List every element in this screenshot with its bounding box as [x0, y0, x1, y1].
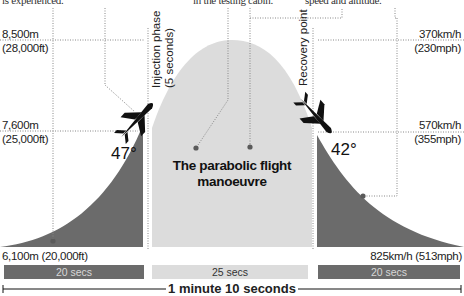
total-duration-label: 1 minute 10 seconds	[166, 281, 298, 296]
altitude-7600: 7,600m (25,000ft)	[2, 118, 48, 146]
title-line-1: The parabolic flight	[170, 158, 294, 174]
parabola-area	[152, 40, 312, 247]
parabola-duration-bar: 25 secs	[152, 265, 308, 279]
altitude-8500: 8,500m (28,000ft)	[2, 27, 48, 55]
climb-angle: 47°	[111, 144, 137, 164]
caption-top-center-left: in the testing cabin.	[193, 0, 273, 6]
altitude-8500-m: 8,500m	[2, 27, 48, 41]
diagram-title: The parabolic flight manoeuvre	[170, 158, 294, 190]
descent-angle: 42°	[331, 140, 357, 160]
title-line-2: manoeuvre	[170, 174, 294, 190]
injection-phase-duration: (5 seconds)	[163, 11, 176, 88]
speed-370: 370km/h (230mph)	[414, 27, 461, 55]
recovery-point-label: Recovery point	[297, 9, 310, 86]
altitude-7600-m: 7,600m	[2, 118, 48, 132]
speed-370-mph: (230mph)	[414, 41, 461, 55]
speed-570: 570km/h (355mph)	[414, 118, 461, 146]
speed-825: 825km/h (513mph)	[370, 249, 462, 263]
altitude-8500-ft: (28,000ft)	[2, 41, 48, 55]
descent-duration-bar: 20 secs	[318, 265, 460, 279]
speed-570-kmh: 570km/h	[414, 118, 461, 132]
total-duration: 1 minute 10 seconds	[0, 282, 464, 296]
injection-phase-title: Injection phase	[150, 11, 163, 88]
speed-570-mph: (355mph)	[414, 132, 461, 146]
caption-top-center-right: speed and altitude.	[305, 0, 381, 6]
altitude-7600-ft: (25,000ft)	[2, 132, 48, 146]
injection-phase-label: Injection phase (5 seconds)	[150, 11, 176, 88]
altitude-6100: 6,100m (20,000ft)	[2, 249, 88, 263]
climb-duration-bar: 20 secs	[4, 265, 144, 279]
speed-370-kmh: 370km/h	[414, 27, 461, 41]
caption-top-left: is experienced.	[2, 0, 63, 6]
